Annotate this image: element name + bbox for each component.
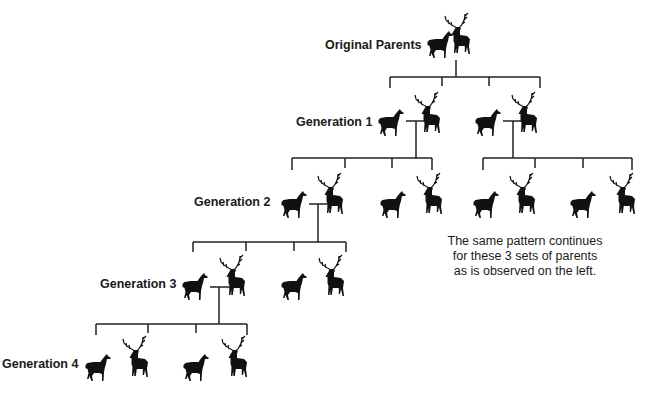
- stag-icon: [508, 172, 538, 216]
- pattern-note: The same pattern continues for these 3 s…: [425, 234, 625, 279]
- doe-icon: [84, 353, 114, 383]
- stag-icon: [608, 172, 638, 216]
- stag-icon: [317, 254, 347, 298]
- stag-icon: [218, 254, 248, 298]
- level-label-generation-2: Generation 2: [194, 195, 270, 209]
- stag-icon: [121, 335, 151, 379]
- doe-icon: [472, 190, 502, 220]
- doe-icon: [182, 353, 212, 383]
- stag-icon: [510, 91, 540, 135]
- doe-icon: [379, 190, 409, 220]
- stag-icon: [443, 12, 473, 56]
- stag-icon: [220, 335, 250, 379]
- stag-icon: [413, 91, 443, 135]
- pattern-note-line-3: as is observed on the left.: [425, 264, 625, 279]
- stag-icon: [316, 172, 346, 216]
- level-label-generation-3: Generation 3: [100, 277, 176, 291]
- stag-icon: [415, 172, 445, 216]
- doe-icon: [181, 272, 211, 302]
- doe-icon: [280, 272, 310, 302]
- level-label-generation-4: Generation 4: [2, 357, 78, 371]
- doe-icon: [377, 108, 407, 138]
- doe-icon: [280, 190, 310, 220]
- pattern-note-line-1: The same pattern continues: [425, 234, 625, 249]
- level-label-generation-1: Generation 1: [296, 115, 372, 129]
- doe-icon: [474, 108, 504, 138]
- level-label-original-parents: Original Parents: [325, 38, 422, 52]
- doe-icon: [569, 190, 599, 220]
- pattern-note-line-2: for these 3 sets of parents: [425, 249, 625, 264]
